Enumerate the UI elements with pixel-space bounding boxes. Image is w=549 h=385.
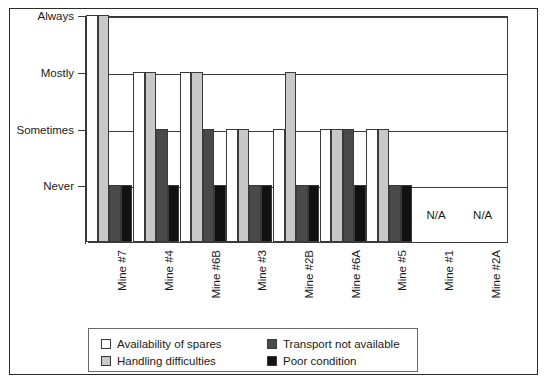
gridline-always bbox=[89, 17, 507, 18]
x-axis-tick-label: Mine #5 bbox=[396, 250, 408, 291]
legend-swatch-icon bbox=[267, 356, 277, 366]
legend-label: Handling difficulties bbox=[117, 355, 216, 367]
chart-legend: Availability of sparesHandling difficult… bbox=[88, 328, 418, 372]
bar bbox=[86, 15, 98, 242]
bar bbox=[401, 185, 413, 242]
na-label: N/A bbox=[426, 209, 445, 221]
bar bbox=[109, 185, 121, 242]
y-tick-never bbox=[78, 186, 85, 187]
bar bbox=[238, 129, 250, 243]
y-tick-sometimes bbox=[78, 130, 85, 131]
bar bbox=[296, 185, 308, 242]
y-tick-always bbox=[78, 16, 85, 17]
legend-entry: Handling difficulties bbox=[101, 355, 216, 367]
bar bbox=[354, 185, 366, 242]
bar bbox=[180, 72, 192, 242]
legend-label: Transport not available bbox=[283, 338, 400, 350]
bar bbox=[331, 129, 343, 243]
bar bbox=[261, 185, 273, 242]
bar bbox=[121, 185, 133, 242]
plot-area: N/AN/A bbox=[88, 16, 508, 243]
y-axis-tick-label: Never bbox=[0, 180, 74, 192]
bar bbox=[320, 129, 332, 243]
bar bbox=[145, 72, 157, 242]
y-axis-tick-label: Mostly bbox=[0, 67, 74, 79]
bar bbox=[133, 72, 145, 242]
legend-label: Availability of spares bbox=[117, 338, 222, 350]
y-axis-tick-label: Always bbox=[0, 10, 74, 22]
legend-swatch-icon bbox=[101, 356, 111, 366]
bar bbox=[308, 185, 320, 242]
bar bbox=[98, 15, 110, 242]
x-axis-tick-label: Mine #2A bbox=[490, 250, 502, 299]
bar bbox=[168, 185, 180, 242]
legend-entry: Poor condition bbox=[267, 355, 357, 367]
bar bbox=[203, 129, 215, 243]
bar bbox=[389, 185, 401, 242]
bar bbox=[226, 129, 238, 243]
bar bbox=[285, 72, 297, 242]
legend-label: Poor condition bbox=[283, 355, 357, 367]
bar bbox=[156, 129, 168, 243]
x-axis-tick-label: Mine #7 bbox=[116, 250, 128, 291]
x-axis-tick-label: Mine #2B bbox=[303, 250, 315, 299]
x-axis-tick-label: Mine #6A bbox=[350, 250, 362, 299]
bar bbox=[214, 185, 226, 242]
bar bbox=[366, 129, 378, 243]
x-axis-tick-label: Mine #4 bbox=[163, 250, 175, 291]
bar bbox=[191, 72, 203, 242]
bar bbox=[249, 185, 261, 242]
na-label: N/A bbox=[473, 209, 492, 221]
legend-entry: Transport not available bbox=[267, 338, 400, 350]
legend-swatch-icon bbox=[267, 339, 277, 349]
y-tick-mostly bbox=[78, 73, 85, 74]
bar bbox=[273, 129, 285, 243]
x-axis-tick-label: Mine #6B bbox=[210, 250, 222, 299]
bar bbox=[378, 129, 390, 243]
x-axis-tick-label: Mine #3 bbox=[256, 250, 268, 291]
legend-swatch-icon bbox=[101, 339, 111, 349]
bar bbox=[343, 129, 355, 243]
legend-entry: Availability of spares bbox=[101, 338, 222, 350]
x-axis-tick-label: Mine #1 bbox=[443, 250, 455, 291]
y-axis-tick-label: Sometimes bbox=[0, 124, 74, 136]
chart-figure: NeverSometimesMostlyAlways N/AN/A Mine #… bbox=[0, 0, 549, 385]
